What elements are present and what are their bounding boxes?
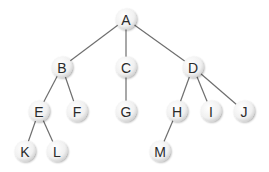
node-l: L <box>47 141 68 162</box>
node-label: M <box>154 144 166 160</box>
node-label: K <box>20 144 30 160</box>
node-label: J <box>241 104 248 120</box>
node-label: H <box>172 104 182 120</box>
node-label: I <box>209 104 213 120</box>
node-e: E <box>29 101 50 122</box>
edge-a-d <box>126 19 193 67</box>
node-label: D <box>188 60 198 76</box>
node-label: A <box>121 12 131 28</box>
node-g: G <box>116 101 137 122</box>
node-label: L <box>53 144 61 160</box>
node-a: A <box>116 9 137 30</box>
node-c: C <box>116 57 137 78</box>
node-label: E <box>34 104 43 120</box>
node-h: H <box>167 101 188 122</box>
node-d: D <box>183 57 204 78</box>
node-f: F <box>67 101 88 122</box>
edge-a-b <box>62 19 126 67</box>
edges-layer <box>25 19 244 151</box>
node-b: B <box>52 57 73 78</box>
node-label: C <box>121 60 131 76</box>
tree-diagram: ABCDEFGHIJKLM <box>0 0 269 172</box>
nodes-layer: ABCDEFGHIJKLM <box>15 9 255 162</box>
node-k: K <box>15 141 36 162</box>
node-label: F <box>73 104 82 120</box>
node-label: B <box>57 60 66 76</box>
node-label: G <box>121 104 132 120</box>
node-m: M <box>150 141 171 162</box>
node-i: I <box>201 101 222 122</box>
node-j: J <box>234 101 255 122</box>
